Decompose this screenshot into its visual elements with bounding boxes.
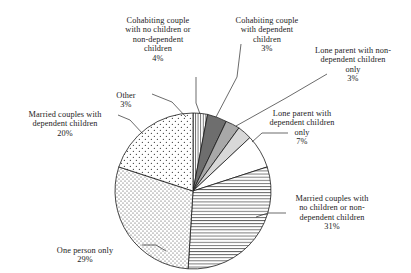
pie-chart-figure: Cohabiting couple with no children or no… <box>0 0 411 273</box>
label-lone-parent-non-dependent-text: Lone parent with non- dependent children… <box>315 46 391 74</box>
leader-cohabiting-no-children <box>196 77 200 114</box>
label-lone-parent-dependent-text: Lone parent with dependent children only <box>269 109 334 137</box>
label-married-no-children-percent: 31% <box>262 222 402 232</box>
label-lone-parent-non-dependent-percent: 3% <box>297 74 409 84</box>
label-married-no-children: Married couples with no children or non-… <box>262 184 402 242</box>
label-lone-parent-dependent: Lone parent with dependent children only… <box>248 99 356 157</box>
label-married-dependent-percent: 20% <box>2 129 128 139</box>
label-married-dependent-text: Married couples with dependent children <box>29 110 102 129</box>
label-lone-parent-non-dependent: Lone parent with non- dependent children… <box>297 36 409 94</box>
label-married-dependent: Married couples with dependent children … <box>2 100 128 148</box>
label-one-person-text: One person only <box>57 246 113 255</box>
label-one-person-percent: 29% <box>26 255 144 265</box>
label-lone-parent-dependent-percent: 7% <box>248 137 356 147</box>
cut-off-caption <box>0 266 411 273</box>
label-cohabiting-dependent-text: Cohabiting couple with dependent childre… <box>236 16 299 44</box>
label-cohabiting-no-children: Cohabiting couple with no children or no… <box>96 6 220 73</box>
label-married-no-children-text: Married couples with no children or non-… <box>296 194 369 222</box>
label-other-text: Other <box>116 91 135 100</box>
label-cohabiting-no-children-text: Cohabiting couple with no children or no… <box>125 16 190 54</box>
label-cohabiting-no-children-percent: 4% <box>96 54 220 64</box>
